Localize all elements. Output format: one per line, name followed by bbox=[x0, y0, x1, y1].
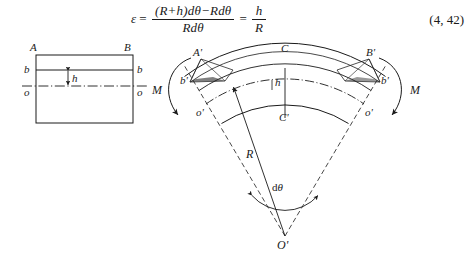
label-A: A bbox=[29, 41, 37, 53]
label-b-right: b bbox=[137, 63, 143, 75]
fraction-numerator: (R+h)dθ−Rdθ bbox=[152, 4, 235, 19]
label-o-right: o bbox=[137, 86, 143, 98]
label-O-prime: O' bbox=[277, 238, 289, 252]
label-B-prime: B' bbox=[366, 46, 376, 58]
equation-equals: = bbox=[136, 11, 150, 27]
moment-arrow-left bbox=[169, 58, 191, 115]
strain-equation: ε = (R+h)dθ−Rdθ Rdθ = h R bbox=[131, 4, 268, 34]
label-o-prime-left: o' bbox=[196, 106, 205, 118]
equation-number: (4, 42) bbox=[429, 12, 464, 28]
main-fraction: (R+h)dθ−Rdθ Rdθ bbox=[152, 4, 235, 34]
label-B: B bbox=[124, 41, 131, 53]
label-h-right: h bbox=[275, 76, 281, 88]
left-figure-group: A B b b h o o bbox=[22, 41, 148, 123]
result-denominator: R bbox=[252, 20, 266, 35]
result-fraction: h R bbox=[252, 4, 266, 34]
label-C-prime: C' bbox=[279, 111, 289, 123]
label-C: C bbox=[281, 42, 289, 54]
right-figure-group: A' C B' b' b' h M M o' o' C' R dθ O' bbox=[151, 42, 421, 252]
label-b-left: b bbox=[24, 63, 30, 75]
label-o-prime-right: o' bbox=[365, 106, 374, 118]
label-R: R bbox=[245, 147, 254, 161]
fraction-denominator: Rdθ bbox=[179, 20, 206, 35]
equation-row: ε = (R+h)dθ−Rdθ Rdθ = h R (4, 42) bbox=[0, 2, 474, 34]
label-A-prime: A' bbox=[192, 46, 203, 58]
label-o-left: o bbox=[24, 86, 30, 98]
label-b-prime-left: b' bbox=[180, 74, 189, 86]
angle-arc-dtheta bbox=[252, 196, 318, 211]
figure-page: ε = (R+h)dθ−Rdθ Rdθ = h R (4, 42) bbox=[0, 0, 474, 265]
radius-line-R bbox=[234, 87, 286, 236]
radial-right-dashed bbox=[285, 65, 386, 236]
equation-equals-2: = bbox=[236, 11, 250, 27]
rectangle-outline bbox=[36, 55, 133, 123]
label-b-prime-right: b' bbox=[381, 74, 390, 86]
label-d-theta: dθ bbox=[272, 181, 284, 193]
result-numerator: h bbox=[253, 4, 266, 19]
figure-area: A B b b h o o bbox=[0, 34, 474, 265]
label-h-left: h bbox=[72, 72, 78, 84]
label-M-left: M bbox=[151, 83, 163, 97]
label-M-right: M bbox=[409, 83, 421, 97]
moment-arrow-right bbox=[379, 58, 401, 115]
